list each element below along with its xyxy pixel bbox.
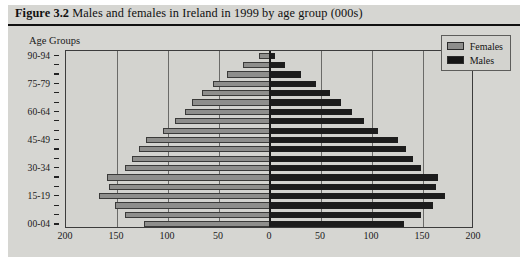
bar-females-50-54 — [163, 128, 270, 134]
y-tick-10-14 — [54, 205, 59, 206]
bar-males-15-19 — [270, 193, 445, 199]
y-axis-title: Age Groups — [29, 35, 80, 46]
legend-item-females[interactable]: Females — [447, 40, 503, 52]
y-tick-50-54 — [54, 130, 59, 131]
bar-males-55-59 — [270, 118, 364, 124]
bar-females-15-19 — [99, 193, 270, 199]
y-tick-65-69 — [54, 102, 59, 103]
bar-males-10-14 — [270, 202, 433, 208]
bar-males-70-74 — [270, 90, 330, 96]
x-tick-label-0: 200 — [58, 230, 73, 241]
bar-females-70-74 — [202, 90, 270, 96]
x-tick-label-7: 150 — [415, 230, 430, 241]
bar-females-10-14 — [115, 202, 270, 208]
figure-container: Figure 3.2 Males and females in Ireland … — [0, 0, 527, 262]
bar-females-80-84 — [227, 71, 270, 77]
y-tick-20-24 — [54, 186, 59, 187]
bar-males-05-09 — [270, 212, 421, 218]
y-tick-45-49 — [54, 139, 59, 140]
x-tick-label-6: 100 — [364, 230, 379, 241]
y-tick-label-90-94: 90-94 — [28, 49, 50, 60]
y-tick-15-19 — [54, 195, 59, 196]
y-tick-label-45-49: 45-49 — [28, 134, 50, 145]
bar-males-25-29 — [270, 174, 438, 180]
bar-females-25-29 — [107, 174, 270, 180]
bar-males-60-64 — [270, 109, 352, 115]
legend-item-males[interactable]: Males — [447, 54, 503, 66]
legend: FemalesMales — [441, 35, 511, 71]
x-tick-label-8: 200 — [466, 230, 481, 241]
bar-females-00-04 — [144, 221, 270, 227]
center-axis-line — [269, 51, 271, 227]
bar-females-20-24 — [109, 184, 270, 190]
bar-females-40-44 — [139, 146, 270, 152]
figure-number: Figure 3.2 — [15, 6, 69, 20]
y-tick-30-34 — [54, 167, 59, 168]
y-tick-05-09 — [54, 214, 59, 215]
legend-label-males: Males — [470, 55, 494, 66]
y-tick-40-44 — [54, 148, 59, 149]
bar-females-55-59 — [175, 118, 270, 124]
x-tick-label-3: 50 — [213, 230, 223, 241]
bar-females-35-39 — [132, 156, 270, 162]
bar-males-85-89 — [270, 62, 285, 68]
bar-females-85-89 — [243, 62, 270, 68]
y-tick-00-04 — [54, 223, 59, 224]
x-axis-labels: 20015010050050100150200 — [65, 230, 473, 246]
y-tick-35-39 — [54, 158, 59, 159]
y-tick-70-74 — [54, 92, 59, 93]
y-tick-55-59 — [54, 120, 59, 121]
bar-males-30-34 — [270, 165, 421, 171]
chart-panel: Age Groups 00-0415-1930-3445-4960-6475-7… — [8, 26, 520, 257]
y-tick-label-75-79: 75-79 — [28, 77, 50, 88]
y-tick-90-94 — [54, 55, 59, 56]
bar-females-75-79 — [213, 81, 270, 87]
legend-swatch-females — [447, 42, 464, 50]
x-tick-label-4: 0 — [267, 230, 272, 241]
y-tick-80-84 — [54, 73, 59, 74]
bar-males-00-04 — [270, 221, 404, 227]
y-tick-60-64 — [54, 111, 59, 112]
y-axis-labels: 00-0415-1930-3445-4960-6475-7990-94 — [8, 50, 59, 228]
x-tick-label-1: 150 — [109, 230, 124, 241]
figure-title-band: Figure 3.2 Males and females in Ireland … — [8, 5, 520, 24]
bar-females-65-69 — [192, 99, 270, 105]
bar-males-65-69 — [270, 99, 341, 105]
y-tick-75-79 — [54, 83, 59, 84]
bar-males-45-49 — [270, 137, 398, 143]
bar-females-30-34 — [125, 165, 270, 171]
y-tick-25-29 — [54, 176, 59, 177]
bar-males-20-24 — [270, 184, 436, 190]
y-tick-label-15-19: 15-19 — [28, 190, 50, 201]
bar-males-80-84 — [270, 71, 301, 77]
bar-males-75-79 — [270, 81, 316, 87]
y-tick-label-00-04: 00-04 — [28, 218, 50, 229]
bar-males-50-54 — [270, 128, 378, 134]
figure-caption: Males and females in Ireland in 1999 by … — [72, 6, 362, 20]
bar-males-35-39 — [270, 156, 413, 162]
legend-swatch-males — [447, 56, 464, 64]
y-tick-85-89 — [54, 64, 59, 65]
legend-label-females: Females — [470, 41, 503, 52]
y-tick-label-30-34: 30-34 — [28, 162, 50, 173]
y-tick-label-60-64: 60-64 — [28, 105, 50, 116]
x-tick-label-2: 100 — [160, 230, 175, 241]
bar-females-45-49 — [146, 137, 270, 143]
bar-males-40-44 — [270, 146, 406, 152]
bar-females-60-64 — [185, 109, 270, 115]
bar-females-05-09 — [125, 212, 270, 218]
page-title: Figure 3.2 Males and females in Ireland … — [15, 6, 363, 21]
plot-area — [65, 50, 473, 228]
x-tick-label-5: 50 — [315, 230, 325, 241]
